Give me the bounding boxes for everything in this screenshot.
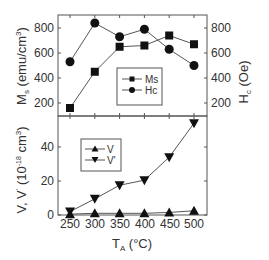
legend-vprime: V' [107,155,116,166]
legend-hc: Hc [145,85,157,96]
ytick-bottom-20: 20 [41,174,55,188]
legend-v: V [107,144,114,155]
ytick-top-200: 200 [34,96,54,110]
top-right-axis-label: Hc (Oe) [236,60,253,103]
ytick-right-200: 200 [211,96,231,110]
xtick-350: 350 [110,217,130,231]
legend-bottom: V V' [81,139,121,171]
tick-labels: 800 600 400 200 800 600 400 200 40 20 0 … [34,21,231,231]
bottom-axis-label: V, V' (10-18 cm3) [14,126,29,213]
ytick-right-600: 600 [211,46,231,60]
ytick-right-800: 800 [211,21,231,35]
ytick-right-400: 400 [211,71,231,85]
top-left-axis-label: Ms (emu/cm3) [14,27,31,105]
ytick-bottom-0: 0 [47,208,54,222]
ytick-top-800: 800 [34,21,54,35]
circle-marker-icon [129,87,135,93]
xtick-450: 450 [160,217,180,231]
bottom-plot-frame [58,116,207,215]
legend-top: Ms Hc [117,68,162,105]
ytick-top-600: 600 [34,46,54,60]
xtick-400: 400 [135,217,155,231]
xtick-300: 300 [85,217,105,231]
xtick-500: 500 [184,217,204,231]
legend-ms: Ms [145,74,158,85]
square-marker-icon [130,77,135,82]
chart-figure: 800 600 400 200 800 600 400 200 40 20 0 … [0,0,269,260]
data-series [65,19,199,219]
ytick-bottom-40: 40 [41,140,55,154]
x-axis-label: TA (°C) [112,236,152,253]
xtick-250: 250 [60,217,80,231]
ytick-top-400: 400 [34,71,54,85]
